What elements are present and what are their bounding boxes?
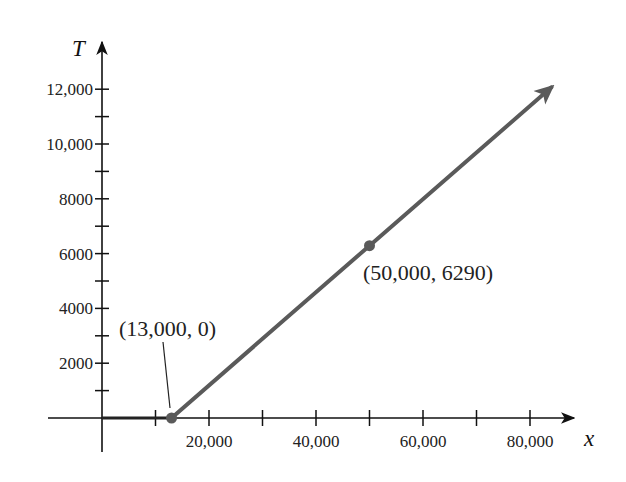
y-tick-label: 10,000 bbox=[46, 135, 93, 154]
y-tick-labels: 200040006000800010,00012,000 bbox=[46, 80, 93, 373]
tax-function-chart: 20,00040,00060,00080,000 200040006000800… bbox=[0, 0, 626, 482]
y-tick-label: 6000 bbox=[59, 245, 93, 264]
y-axis-label: T bbox=[72, 36, 87, 61]
x-tick-label: 40,000 bbox=[293, 432, 340, 451]
x-axis-label: x bbox=[583, 426, 595, 451]
annotation-50000-6290: (50,000, 6290) bbox=[363, 260, 493, 285]
annotation-leader-line bbox=[163, 342, 170, 408]
data-point bbox=[166, 413, 177, 424]
y-tick-label: 4000 bbox=[59, 299, 93, 318]
annotation-13000-0: (13,000, 0) bbox=[119, 316, 216, 341]
x-tick-labels: 20,00040,00060,00080,000 bbox=[186, 432, 554, 451]
series-rising-segment bbox=[172, 87, 552, 418]
y-tick-label: 8000 bbox=[59, 190, 93, 209]
y-tick-label: 2000 bbox=[59, 354, 93, 373]
x-tick-label: 20,000 bbox=[186, 432, 233, 451]
x-tick-label: 80,000 bbox=[507, 432, 554, 451]
axes bbox=[48, 42, 574, 452]
annotations: (13,000, 0)(50,000, 6290) bbox=[119, 260, 493, 408]
y-tick-label: 12,000 bbox=[46, 80, 93, 99]
x-tick-label: 60,000 bbox=[400, 432, 447, 451]
data-point bbox=[364, 240, 375, 251]
series bbox=[102, 87, 551, 418]
